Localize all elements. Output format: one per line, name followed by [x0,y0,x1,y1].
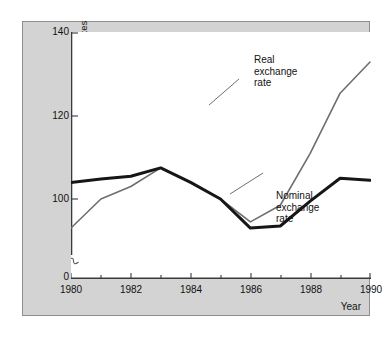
annotation-real-line2: exchange [254,66,297,78]
leader-line-nominal [230,173,263,194]
annotation-nominal-line1: Nominal [276,190,319,202]
x-tick-label-group: 1980 1982 1984 1986 1988 1990 [23,284,371,300]
x-tick-label-1980: 1980 [60,284,82,295]
series-line-nominal-exchange-rate [71,168,370,228]
axis-spines [71,32,371,278]
x-tick-label-1990: 1990 [360,284,382,295]
annotation-real-line3: rate [254,77,297,89]
plot-area: Real exchange rate Nominal exchange rate [71,32,371,279]
x-axis-title: Year [341,301,361,312]
y-tick-label-100: 100 [39,194,69,204]
annotation-nominal-line3: rate [276,213,319,225]
x-tick-label-1986: 1986 [240,284,262,295]
x-tick-label-1988: 1988 [300,284,322,295]
annotation-real-line1: Real [254,54,297,66]
chart-figure-panel: Real and nominal exchange rates (Index n… [22,21,370,316]
y-tick-label-140: 140 [39,27,69,37]
chart-canvas [71,32,371,279]
y-tick-label-0: 0 [39,272,69,282]
x-tick-label-1982: 1982 [120,284,142,295]
series-line-real-exchange-rate [71,62,370,228]
x-tick-label-1984: 1984 [180,284,202,295]
annotation-real-exchange-rate: Real exchange rate [254,54,297,89]
y-tick-label-120: 120 [39,111,69,121]
annotation-nominal-exchange-rate: Nominal exchange rate [276,190,319,225]
leader-line-real [209,79,239,105]
y-tick-label-group: 140 120 100 0 [31,22,69,317]
annotation-nominal-line2: exchange [276,202,319,214]
axis-break-icon [71,258,79,264]
